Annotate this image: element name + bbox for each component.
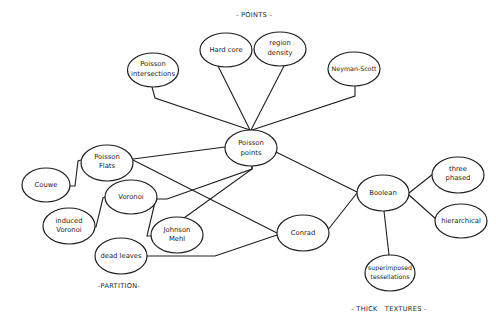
node-region-density[interactable]: region density: [254, 32, 306, 66]
section-label-points: - POINTS -: [236, 11, 273, 19]
node-label: three: [449, 165, 467, 173]
node-label: Poisson: [140, 60, 165, 68]
edge-boolean-hierarchical: [409, 195, 437, 220]
node-label: Johnson: [163, 226, 191, 234]
node-label: region: [269, 39, 291, 47]
node-johnson-mehl[interactable]: Johnson Mehl: [151, 217, 203, 253]
node-poisson-intersections[interactable]: Poisson intersections: [128, 53, 179, 87]
edge-poisson-points-voronoi: [157, 166, 252, 199]
node-label: Boolean: [369, 189, 397, 197]
edge-poisson-flats-couwe: [70, 160, 81, 186]
edge-poisson-intersections-poisson-points: [152, 87, 250, 130]
node-label: Neyman-Scott: [332, 65, 377, 73]
edge-neyman-scott-poisson-points: [252, 86, 355, 130]
node-label: dead leaves: [100, 252, 142, 260]
node-voronoi[interactable]: Voronoi: [105, 180, 157, 214]
node-poisson-flats[interactable]: Poisson Flats: [81, 145, 133, 181]
section-label-partition: -PARTITION-: [98, 282, 141, 290]
edge-poisson-points-poisson-flats: [133, 147, 225, 159]
node-superimposed-tessellations[interactable]: superimposed tessellations: [365, 255, 415, 291]
node-label: tessellations: [371, 273, 410, 280]
edge-voronoi-induced-voronoi: [95, 197, 105, 227]
node-hard-core[interactable]: Hard core: [200, 33, 252, 67]
node-label: induced: [55, 217, 82, 225]
node-boolean[interactable]: Boolean: [357, 175, 409, 211]
node-label: superimposed: [368, 264, 412, 272]
edge-poisson-points-johnson-mehl: [184, 166, 252, 218]
node-label: Flats: [99, 162, 116, 170]
node-label: Voronoi: [56, 226, 82, 234]
node-dead-leaves[interactable]: dead leaves: [95, 238, 147, 274]
node-hierarchical[interactable]: hierarchical: [435, 204, 487, 238]
node-label: Couwe: [35, 181, 58, 189]
node-label: Poisson: [94, 153, 119, 161]
node-label: hierarchical: [441, 217, 481, 225]
node-label: phased: [446, 174, 471, 182]
node-conrad[interactable]: Conrad: [277, 215, 329, 251]
edge-region-density-poisson-points: [251, 66, 284, 130]
node-label: Voronoi: [118, 193, 144, 201]
node-label: Conrad: [291, 229, 316, 237]
node-label: Mehl: [169, 235, 185, 243]
node-three-phased[interactable]: three phased: [432, 157, 484, 193]
edge-boolean-three-phased: [409, 174, 433, 193]
texture-models-diagram: - POINTS - -PARTITION- - THICK TEXTURES …: [0, 0, 496, 315]
node-poisson-points[interactable]: Poisson points: [225, 130, 277, 166]
node-induced-voronoi[interactable]: induced Voronoi: [43, 208, 95, 244]
node-label: points: [241, 149, 262, 157]
node-label: Poisson: [238, 139, 263, 147]
edge-poisson-points-boolean: [276, 152, 357, 192]
node-neyman-scott[interactable]: Neyman-Scott: [328, 52, 380, 86]
node-label: Hard core: [209, 46, 242, 54]
node-couwe[interactable]: Couwe: [22, 168, 70, 202]
node-label: density: [268, 49, 293, 57]
node-label: intersections: [131, 70, 175, 78]
edge-boolean-superimposed-tessellations: [384, 211, 389, 255]
edge-conrad-boolean: [327, 193, 357, 231]
section-label-thick-textures: - THICK TEXTURES -: [351, 305, 427, 313]
